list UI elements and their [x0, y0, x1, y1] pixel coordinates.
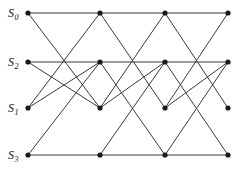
network-svg: S0S2S1S3 [0, 0, 250, 170]
network-edge [28, 62, 100, 155]
network-edge [100, 62, 165, 108]
edge-layer [28, 13, 228, 155]
network-node [225, 10, 230, 15]
network-node [225, 59, 230, 64]
stage-label-subscript: 2 [15, 62, 19, 71]
stage-label-subscript: 3 [14, 155, 19, 164]
network-node [25, 59, 30, 64]
network-node [162, 10, 167, 15]
stage-label-s2: S2 [8, 55, 19, 71]
node-layer [25, 10, 230, 157]
network-node [225, 105, 230, 110]
stage-label-subscript: 0 [15, 13, 19, 22]
stage-label-layer: S0S2S1S3 [8, 6, 19, 164]
network-node [25, 152, 30, 157]
network-node [162, 105, 167, 110]
stage-label-s3: S3 [8, 148, 19, 164]
network-node [97, 59, 102, 64]
network-node [97, 105, 102, 110]
network-diagram: S0S2S1S3 [0, 0, 250, 170]
stage-label-subscript: 1 [15, 108, 19, 117]
network-node [225, 152, 230, 157]
network-node [97, 10, 102, 15]
network-node [97, 152, 102, 157]
network-node [162, 152, 167, 157]
stage-label-s1: S1 [8, 101, 19, 117]
network-node [25, 105, 30, 110]
network-node [162, 59, 167, 64]
network-edge [165, 62, 228, 108]
network-node [25, 10, 30, 15]
stage-label-s0: S0 [8, 6, 19, 22]
